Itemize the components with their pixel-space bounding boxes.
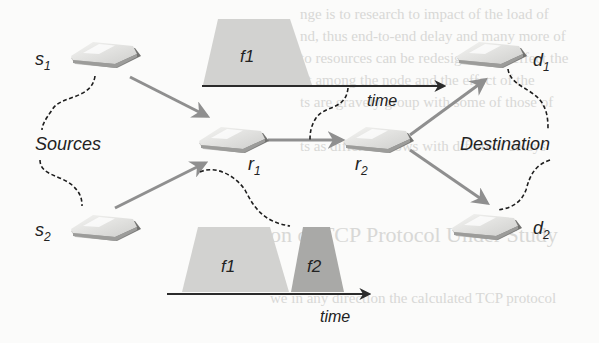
edges bbox=[115, 77, 487, 208]
router-icon bbox=[199, 127, 269, 153]
node-s1: s1 bbox=[35, 42, 141, 73]
destination-label: Destination bbox=[460, 134, 550, 154]
brace-destination-top bbox=[508, 69, 548, 130]
router-icon bbox=[344, 127, 414, 153]
bottom-time-label: time bbox=[320, 308, 350, 325]
node-s2: s2 bbox=[35, 215, 141, 244]
router-icon bbox=[71, 215, 141, 241]
node-d1: d1 bbox=[457, 42, 550, 74]
node-s1-label: s1 bbox=[35, 49, 51, 73]
brace-sources-bottom bbox=[40, 160, 82, 206]
top-time-label: time bbox=[367, 92, 397, 109]
top-flow-f1-shape bbox=[203, 19, 312, 85]
node-r2: r2 bbox=[344, 127, 414, 178]
bottom-flow-f2-label: f2 bbox=[307, 257, 322, 276]
node-r2-label: r2 bbox=[355, 154, 368, 178]
brace-r1-bottom bbox=[200, 170, 290, 226]
node-d1-label: d1 bbox=[533, 50, 550, 74]
edge-r2-d2 bbox=[410, 150, 487, 203]
edge-r2-d1 bbox=[410, 80, 485, 135]
router-icon bbox=[452, 214, 522, 240]
top-flow-f1-label: f1 bbox=[240, 47, 254, 66]
brace-sources-top bbox=[42, 76, 95, 130]
brace-r1-top-timeline bbox=[310, 88, 348, 140]
top-timeline: f1 time bbox=[202, 19, 444, 109]
router-icon bbox=[457, 42, 527, 68]
node-s2-label: s2 bbox=[35, 220, 51, 244]
brace-destination-bottom bbox=[497, 160, 550, 210]
node-d2: d2 bbox=[452, 214, 550, 242]
network-diagram: f1 time f1 f2 time s1 s2 r1 bbox=[0, 0, 599, 343]
bottom-timeline: f1 f2 time bbox=[167, 227, 369, 325]
node-d2-label: d2 bbox=[533, 218, 550, 242]
sources-label: Sources bbox=[35, 134, 101, 154]
edge-s2-r1 bbox=[115, 163, 205, 208]
edge-s1-r1 bbox=[130, 77, 207, 116]
bottom-flow-f1-label: f1 bbox=[221, 257, 235, 276]
node-r1-label: r1 bbox=[248, 154, 261, 178]
bottom-flow-f1-shape bbox=[182, 227, 289, 292]
router-icon bbox=[71, 42, 141, 68]
